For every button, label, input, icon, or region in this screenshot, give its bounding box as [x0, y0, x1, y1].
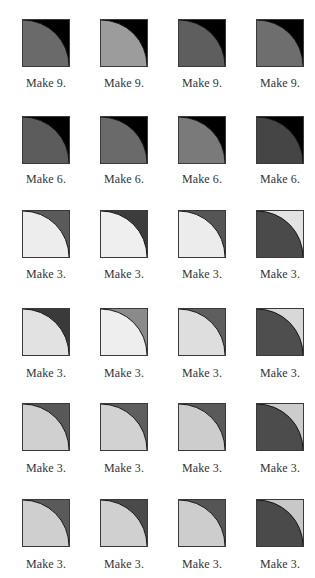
quarter-circle-block	[256, 19, 304, 67]
quarter-circle-icon	[257, 117, 303, 163]
quarter-circle-icon	[23, 20, 69, 66]
block-quantity-label: Make 3.	[6, 557, 86, 572]
block-quantity-label: Make 9.	[162, 76, 242, 91]
block-quantity-label: Make 3.	[240, 366, 315, 381]
block-quantity-label: Make 3.	[162, 366, 242, 381]
block-quantity-label: Make 6.	[162, 172, 242, 187]
block-quantity-label: Make 3.	[162, 461, 242, 476]
quarter-circle-block	[178, 308, 226, 356]
quarter-circle-block	[100, 210, 148, 258]
quarter-circle-icon	[257, 500, 303, 546]
quarter-circle-block	[256, 403, 304, 451]
quarter-circle-block	[178, 19, 226, 67]
quarter-circle-block	[100, 403, 148, 451]
quarter-circle-icon	[257, 404, 303, 450]
block-quantity-label: Make 3.	[240, 461, 315, 476]
quarter-circle-block	[22, 116, 70, 164]
quarter-circle-block	[178, 403, 226, 451]
quarter-circle-icon	[23, 211, 69, 257]
quarter-circle-icon	[257, 211, 303, 257]
quarter-circle-block	[100, 499, 148, 547]
quarter-circle-block	[22, 403, 70, 451]
quarter-circle-icon	[101, 404, 147, 450]
quarter-circle-icon	[23, 404, 69, 450]
quarter-circle-icon	[101, 211, 147, 257]
quarter-circle-icon	[101, 500, 147, 546]
quarter-circle-icon	[179, 309, 225, 355]
block-quantity-label: Make 9.	[84, 76, 164, 91]
block-quantity-label: Make 9.	[6, 76, 86, 91]
quarter-circle-block	[178, 210, 226, 258]
quarter-circle-block	[178, 116, 226, 164]
quarter-circle-icon	[257, 309, 303, 355]
quarter-circle-block	[100, 116, 148, 164]
quarter-circle-icon	[23, 500, 69, 546]
quarter-circle-block	[22, 308, 70, 356]
quarter-circle-block	[22, 19, 70, 67]
quarter-circle-block	[178, 499, 226, 547]
block-quantity-label: Make 3.	[6, 267, 86, 282]
quarter-circle-icon	[179, 117, 225, 163]
block-quantity-label: Make 3.	[84, 557, 164, 572]
quarter-circle-block	[22, 210, 70, 258]
quarter-circle-block	[256, 308, 304, 356]
quarter-circle-icon	[101, 20, 147, 66]
block-quantity-label: Make 3.	[162, 267, 242, 282]
quarter-circle-icon	[179, 500, 225, 546]
block-quantity-label: Make 3.	[84, 366, 164, 381]
block-quantity-label: Make 9.	[240, 76, 315, 91]
quarter-circle-icon	[257, 20, 303, 66]
quarter-circle-block	[256, 210, 304, 258]
quarter-circle-icon	[101, 117, 147, 163]
quarter-circle-icon	[179, 20, 225, 66]
quarter-circle-block	[100, 19, 148, 67]
block-quantity-label: Make 3.	[84, 267, 164, 282]
block-quantity-label: Make 3.	[84, 461, 164, 476]
quarter-circle-icon	[179, 211, 225, 257]
block-quantity-label: Make 3.	[240, 557, 315, 572]
block-quantity-label: Make 6.	[84, 172, 164, 187]
quarter-circle-icon	[179, 404, 225, 450]
quarter-circle-icon	[101, 309, 147, 355]
quarter-circle-block	[256, 499, 304, 547]
block-quantity-label: Make 3.	[162, 557, 242, 572]
block-quantity-label: Make 3.	[240, 267, 315, 282]
block-quantity-label: Make 6.	[6, 172, 86, 187]
block-quantity-label: Make 3.	[6, 461, 86, 476]
quarter-circle-icon	[23, 117, 69, 163]
quarter-circle-block	[22, 499, 70, 547]
quarter-circle-block	[100, 308, 148, 356]
block-quantity-label: Make 6.	[240, 172, 315, 187]
quarter-circle-icon	[23, 309, 69, 355]
quarter-circle-block	[256, 116, 304, 164]
block-quantity-label: Make 3.	[6, 366, 86, 381]
